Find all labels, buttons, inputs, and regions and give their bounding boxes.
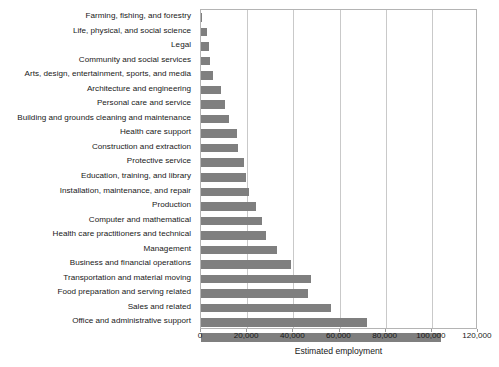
x-axis-tick-labels: 020,00040,00060,00080,000100,000120,000 — [0, 331, 499, 345]
bar-row — [201, 214, 478, 229]
bar — [201, 57, 210, 66]
bar-row — [201, 68, 478, 83]
bar — [201, 318, 367, 327]
bar-row — [201, 155, 478, 170]
category-label: Community and social services — [0, 53, 196, 68]
category-label: Life, physical, and social science — [0, 24, 196, 39]
x-tick-label: 20,000 — [234, 331, 259, 340]
category-label: Building and grounds cleaning and mainte… — [0, 111, 196, 126]
category-label: Computer and mathematical — [0, 213, 196, 228]
bar-chart: Farming, fishing, and forestryLife, phys… — [0, 0, 499, 367]
bar — [201, 217, 262, 226]
category-label: Office and administrative support — [0, 314, 196, 329]
category-axis-labels: Farming, fishing, and forestryLife, phys… — [0, 9, 196, 329]
bar — [201, 28, 207, 37]
bar-row — [201, 315, 478, 330]
bar — [201, 275, 311, 284]
bar-row — [201, 39, 478, 54]
category-label: Personal care and service — [0, 96, 196, 111]
x-tick-mark — [431, 329, 432, 332]
x-tick-mark — [477, 329, 478, 332]
bar-row — [201, 257, 478, 272]
bar — [201, 42, 209, 51]
bar-row — [201, 272, 478, 287]
bar — [201, 231, 266, 240]
category-label: Transportation and material moving — [0, 271, 196, 286]
category-label: Protective service — [0, 154, 196, 169]
bars-layer — [201, 10, 476, 328]
x-tick-label: 40,000 — [280, 331, 305, 340]
plot-area — [200, 9, 477, 329]
bar-row — [201, 170, 478, 185]
category-label: Health care practitioners and technical — [0, 227, 196, 242]
bar-row — [201, 199, 478, 214]
bar — [201, 86, 221, 95]
bar-row — [201, 112, 478, 127]
category-label: Management — [0, 242, 196, 257]
bar-row — [201, 286, 478, 301]
bar — [201, 246, 277, 255]
bar-row — [201, 83, 478, 98]
bar — [201, 202, 256, 211]
x-tick-label: 0 — [198, 331, 203, 340]
bar-row — [201, 126, 478, 141]
bar-row — [201, 301, 478, 316]
bar-row — [201, 185, 478, 200]
x-tick-label: 100,000 — [416, 331, 445, 340]
bar — [201, 158, 244, 167]
bar-row — [201, 97, 478, 112]
category-label: Construction and extraction — [0, 140, 196, 155]
bar-row — [201, 141, 478, 156]
x-tick-mark — [200, 329, 201, 332]
category-label: Production — [0, 198, 196, 213]
x-tick-label: 120,000 — [462, 331, 491, 340]
x-tick-mark — [246, 329, 247, 332]
bar — [201, 71, 213, 80]
category-label: Legal — [0, 38, 196, 53]
bar — [201, 100, 225, 109]
bar — [201, 188, 249, 197]
category-label: Health care support — [0, 125, 196, 140]
bar-row — [201, 54, 478, 69]
category-label: Sales and related — [0, 300, 196, 315]
category-label: Arts, design, entertainment, sports, and… — [0, 67, 196, 82]
bar — [201, 13, 202, 22]
bar-row — [201, 228, 478, 243]
category-label: Farming, fishing, and forestry — [0, 9, 196, 24]
bar — [201, 289, 308, 298]
x-tick-mark — [339, 329, 340, 332]
category-label: Education, training, and library — [0, 169, 196, 184]
bar — [201, 173, 246, 182]
x-tick-mark — [385, 329, 386, 332]
bar-row — [201, 243, 478, 258]
x-axis-title: Estimated employment — [200, 346, 477, 356]
category-label: Food preparation and serving related — [0, 285, 196, 300]
x-tick-label: 80,000 — [372, 331, 397, 340]
category-label: Architecture and engineering — [0, 82, 196, 97]
category-label: Business and financial operations — [0, 256, 196, 271]
category-label: Installation, maintenance, and repair — [0, 184, 196, 199]
bar — [201, 129, 237, 138]
bar — [201, 260, 291, 269]
x-tick-mark — [292, 329, 293, 332]
bar-row — [201, 10, 478, 25]
bar — [201, 115, 229, 124]
bar — [201, 144, 238, 153]
bar — [201, 304, 331, 313]
x-tick-label: 60,000 — [326, 331, 351, 340]
bar-row — [201, 25, 478, 40]
